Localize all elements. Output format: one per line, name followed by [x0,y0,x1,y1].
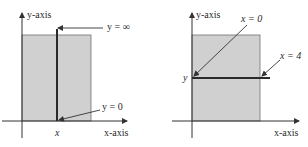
x-tick-label: x [54,127,60,138]
integration-region-diagrams: y-axis y = ∞ y = 0 x x-axis y-axis x = 0… [0,0,308,147]
y-axis-label: y-axis [196,9,221,20]
arrow-x-four [262,60,280,76]
y-tick-label: y [182,72,188,83]
y-axis-label: y-axis [27,9,52,20]
annotation-x-zero: x = 0 [240,13,262,24]
annotation-x-four: x = 4 [279,50,301,61]
right-panel: y-axis x = 0 x = 4 y x-axis [172,9,301,138]
annotation-y-infinity: y = ∞ [107,21,130,32]
x-axis-label: x-axis [104,127,129,138]
x-axis-label: x-axis [274,127,299,138]
annotation-y-zero: y = 0 [102,101,123,112]
left-panel: y-axis y = ∞ y = 0 x x-axis [2,9,130,138]
